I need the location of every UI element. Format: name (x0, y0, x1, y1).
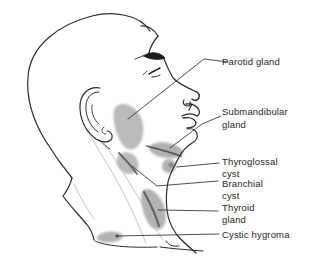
label-line: Parotid gland (222, 56, 280, 68)
mouth-line (182, 114, 197, 116)
head-outline (28, 14, 203, 253)
eye-upper-lid (149, 68, 160, 74)
label-line: gland (222, 214, 255, 226)
label-submandibular-gland: Submandibular gland (222, 105, 288, 131)
label-line: Branchial (222, 178, 263, 190)
brow-tick (135, 55, 145, 59)
label-parotid-gland: Parotid gland (222, 56, 280, 68)
label-line: Thyroglossal (222, 156, 278, 168)
leader-thyroglossal (177, 163, 219, 167)
label-line: Thyroid (222, 202, 255, 214)
label-cystic-hygroma: Cystic hygroma (222, 229, 290, 241)
label-line: Cystic hygroma (222, 229, 290, 241)
leader-cystic-hygroma (117, 234, 219, 236)
label-line: Submandibular (222, 105, 288, 118)
eye-tick (143, 71, 147, 75)
label-branchial-cyst: Branchial cyst (222, 178, 263, 201)
label-line: gland (222, 118, 288, 131)
eye-lower-lid (152, 75, 160, 77)
cystic-hygroma-region (97, 231, 124, 244)
eyebrow-eye (135, 53, 165, 77)
thyroglossal-dark-spot (168, 162, 173, 167)
lower-lip (183, 118, 196, 128)
nostril (183, 100, 190, 106)
label-line: cyst (222, 190, 263, 202)
label-thyroglossal-cyst: Thyroglossal cyst (222, 156, 278, 179)
eyebrow (144, 53, 165, 60)
label-thyroid-gland: Thyroid gland (222, 202, 255, 225)
head-neck-drawing (0, 0, 315, 262)
ear (80, 88, 112, 149)
leader-parotid (128, 59, 228, 119)
anatomy-figure: Parotid gland Submandibular gland Thyrog… (0, 0, 315, 262)
